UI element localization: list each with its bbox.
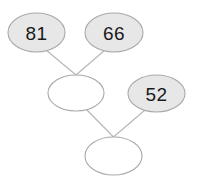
node-top-right[interactable]: 66 <box>85 13 143 52</box>
node-middle-right-label: 52 <box>145 84 167 105</box>
connector-middle-left-to-bottom <box>86 109 114 137</box>
number-pyramid-diagram: 81 66 52 <box>0 0 199 181</box>
connector-top-left-to-middle-left <box>46 50 76 75</box>
connector-top-right-to-middle-left <box>76 50 105 75</box>
node-bottom[interactable] <box>85 137 142 175</box>
node-top-left-label: 81 <box>25 23 47 44</box>
node-bottom-ellipse[interactable] <box>85 137 142 175</box>
node-middle-left-ellipse[interactable] <box>48 75 104 111</box>
node-middle-right[interactable]: 52 <box>128 75 185 112</box>
connector-middle-right-to-bottom <box>114 110 146 137</box>
node-top-left[interactable]: 81 <box>8 13 65 52</box>
diagram-canvas: 81 66 52 <box>0 0 199 181</box>
node-top-right-label: 66 <box>103 23 125 44</box>
node-middle-left[interactable] <box>48 75 104 111</box>
